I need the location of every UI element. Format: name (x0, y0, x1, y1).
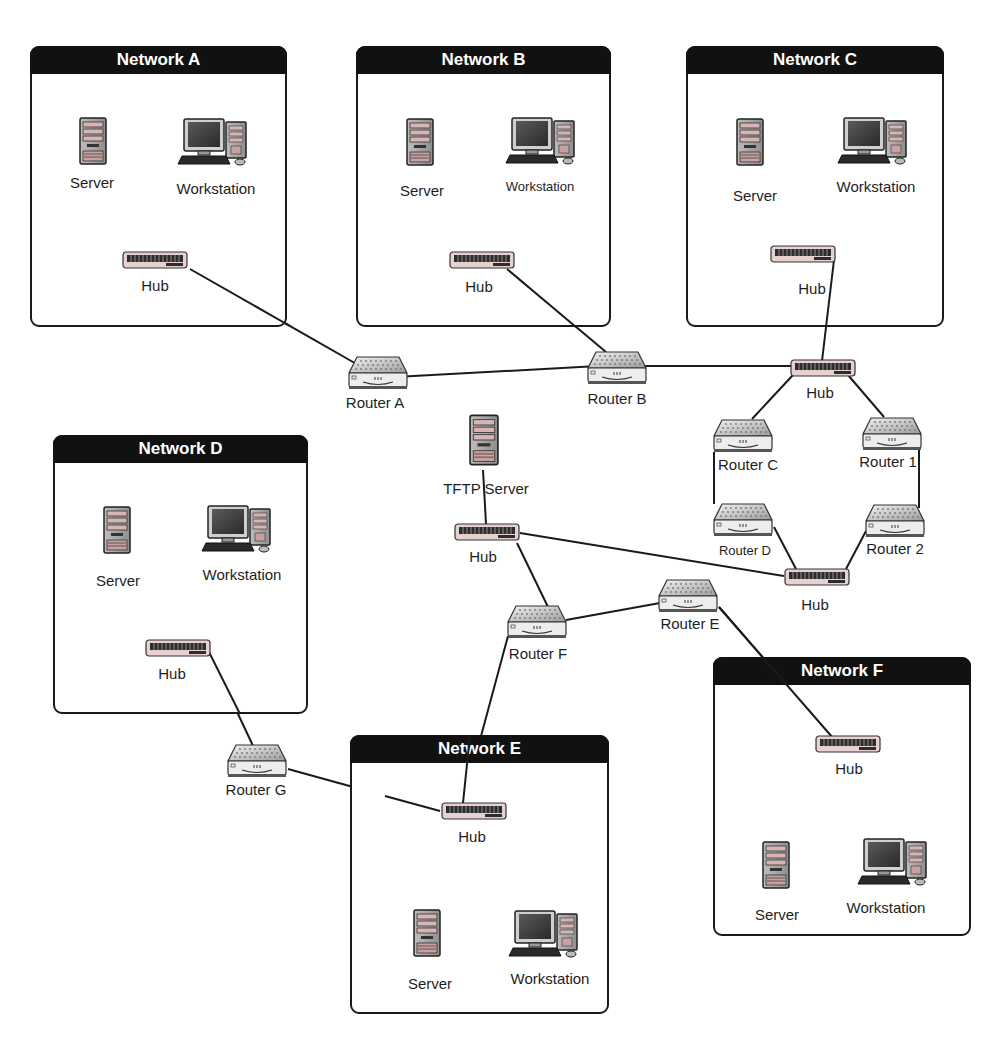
router-f-label: Router F (509, 645, 567, 662)
network-e-hub-icon[interactable] (441, 802, 507, 820)
network-c-workstation-label: Workstation (837, 178, 916, 195)
router-b-label: Router B (587, 390, 646, 407)
hub-lower-label: Hub (801, 596, 829, 613)
network-a-hub-label: Hub (141, 277, 169, 294)
hub-upper-label: Hub (806, 384, 834, 401)
router-c-icon[interactable] (712, 418, 774, 454)
network-d-hub-label: Hub (158, 665, 186, 682)
router-d-icon[interactable] (712, 502, 774, 538)
network-c-workstation-icon[interactable] (836, 117, 916, 165)
network-a-server-label: Server (70, 174, 114, 191)
router-d-label: Router D (719, 543, 771, 558)
router-f-icon[interactable] (506, 604, 568, 640)
network-e-hub-label: Hub (458, 828, 486, 845)
network-d-workstation-label: Workstation (203, 566, 282, 583)
network-e-workstation-icon[interactable] (507, 910, 587, 958)
router-1-icon[interactable] (861, 416, 923, 452)
network-a-hub-icon[interactable] (122, 251, 188, 269)
hub-lower-icon[interactable] (784, 568, 850, 586)
network-d-hub-icon[interactable] (145, 639, 211, 657)
hub-center-icon[interactable] (454, 523, 520, 541)
network-f-server-icon[interactable] (762, 840, 790, 890)
network-c-hub-label: Hub (798, 280, 826, 297)
network-diagram: Network A Network B Network C Network D … (0, 0, 1003, 1040)
router-1-label: Router 1 (859, 453, 917, 470)
router-e-icon[interactable] (657, 578, 719, 614)
network-f-workstation-icon[interactable] (856, 838, 936, 886)
router-g-icon[interactable] (226, 743, 288, 779)
network-a-server-icon[interactable] (79, 117, 107, 165)
tftp-server-icon[interactable] (469, 410, 499, 470)
network-f-server-label: Server (755, 906, 799, 923)
router-c-label: Router C (718, 456, 778, 473)
network-b-hub-icon[interactable] (449, 251, 515, 269)
network-e-server-icon[interactable] (413, 908, 441, 958)
network-b-server-icon[interactable] (406, 118, 434, 166)
network-b-workstation-icon[interactable] (504, 117, 584, 165)
router-a-icon[interactable] (347, 355, 409, 391)
network-d-server-icon[interactable] (103, 505, 131, 555)
router-e-label: Router E (660, 615, 719, 632)
network-a-workstation-icon[interactable] (176, 118, 256, 166)
hub-upper-icon[interactable] (790, 359, 856, 377)
router-b-icon[interactable] (586, 350, 648, 386)
network-d-server-label: Server (96, 572, 140, 589)
network-c-server-label: Server (733, 187, 777, 204)
network-c-server-icon[interactable] (736, 118, 764, 166)
network-c-hub-icon[interactable] (770, 245, 836, 263)
network-a-workstation-label: Workstation (177, 180, 256, 197)
network-b-workstation-label: Workstation (506, 179, 574, 194)
network-f-workstation-label: Workstation (847, 899, 926, 916)
router-2-icon[interactable] (864, 503, 926, 539)
network-e-server-label: Server (408, 975, 452, 992)
network-f-hub-label: Hub (835, 760, 863, 777)
network-f-hub-icon[interactable] (815, 735, 881, 753)
network-e-workstation-label: Workstation (511, 970, 590, 987)
router-a-label: Router A (346, 394, 404, 411)
router-g-label: Router G (226, 781, 287, 798)
tftp-server-label: TFTP Server (443, 480, 529, 497)
network-d-workstation-icon[interactable] (200, 505, 280, 553)
router-2-label: Router 2 (866, 540, 924, 557)
hub-center-label: Hub (469, 548, 497, 565)
network-b-hub-label: Hub (465, 278, 493, 295)
network-b-server-label: Server (400, 182, 444, 199)
